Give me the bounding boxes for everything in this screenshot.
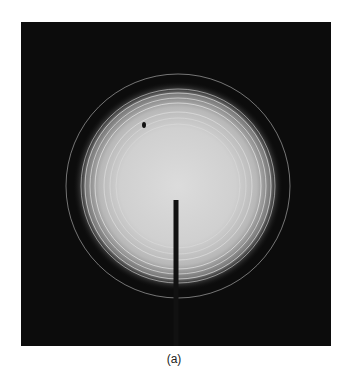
dust-speck [142, 122, 146, 128]
diffraction-pattern-image [21, 22, 331, 346]
figure-caption: (a) [0, 352, 348, 366]
beam-stop [174, 200, 179, 346]
diffraction-rings [21, 22, 331, 346]
